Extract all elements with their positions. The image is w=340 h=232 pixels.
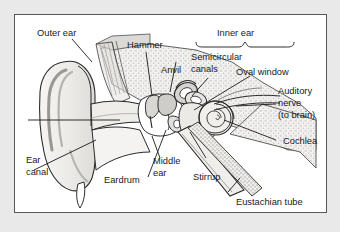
label-ear-canal: Ear: [26, 155, 40, 165]
label-oval-window: Oval window: [236, 67, 289, 77]
label-semicircular-canals: Semicircular: [191, 52, 242, 62]
label-semicircular-canals-line2: canals: [191, 64, 218, 74]
label-eustachian-tube: Eustachian tube: [236, 197, 303, 207]
label-stirrup: Stirrup: [193, 172, 220, 182]
label-auditory-nerve-line2: nerve: [278, 98, 301, 108]
label-ear-canal-line2: canal: [26, 167, 48, 177]
label-eardrum: Eardrum: [104, 175, 140, 185]
label-anvil: Anvil: [161, 65, 181, 75]
label-hammer: Hammer: [127, 40, 163, 50]
label-cochlea: Cochlea: [283, 136, 318, 146]
label-auditory-nerve-line3: (to brain): [278, 110, 315, 120]
ear-anatomy-figure: Outer ear Hammer Anvil Inner ear Semicir…: [0, 0, 340, 232]
label-inner-ear: Inner ear: [217, 28, 254, 38]
label-middle-ear-line2: ear: [153, 168, 166, 178]
label-auditory-nerve: Auditory: [278, 86, 312, 96]
ear-diagram-canvas: Outer ear Hammer Anvil Inner ear Semicir…: [0, 0, 340, 232]
label-middle-ear: Middle: [153, 156, 180, 166]
label-outer-ear: Outer ear: [37, 28, 76, 38]
